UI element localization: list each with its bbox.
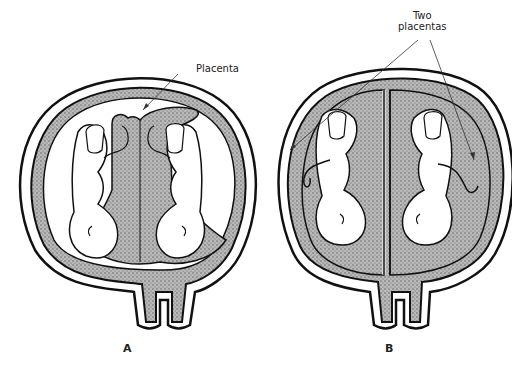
panel-a-letter: A [123,342,132,355]
two-placentas-label: Two placentas [398,10,447,32]
panel-a-uterus [20,74,256,329]
two-placentas-label-line2: placentas [398,21,447,32]
panel-b-letter: B [385,342,393,355]
twin-placenta-diagram [0,0,512,366]
panel-b-uterus [279,40,512,329]
placenta-label: Placenta [196,63,239,74]
two-placentas-label-line1: Two [398,10,447,21]
